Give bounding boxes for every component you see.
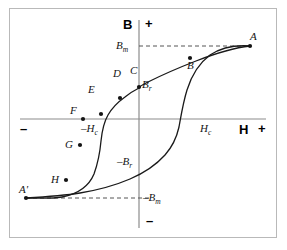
point-label-C: C (130, 65, 137, 76)
positive-h-sign: + (258, 122, 266, 135)
point-label-E: E (88, 84, 95, 95)
hc-tick-label: Hc (200, 123, 211, 137)
point-label-F: F (70, 105, 77, 116)
br-tick-label: Br (142, 79, 152, 93)
point-marker-H (64, 178, 68, 182)
point-marker-D (118, 96, 122, 100)
point-marker-A-prime (24, 196, 28, 200)
h-axis-label: H (239, 123, 248, 136)
point-marker-A (248, 44, 252, 48)
b-axis-label: B (123, 18, 132, 31)
positive-b-sign: + (145, 17, 153, 30)
point-label-A: A (250, 31, 257, 42)
point-label-B: B (187, 60, 194, 71)
point-label-G: G (65, 139, 73, 150)
negative-bm-tick-label: –Bm (143, 192, 161, 206)
point-marker-G (78, 143, 82, 147)
point-marker-E (99, 112, 103, 116)
negative-hc-tick-label: –Hc (81, 123, 98, 137)
point-label-A-prime: A' (19, 184, 28, 195)
hysteresis-loop-figure: B + – H + – Bm Br –Br –Bm –Hc Hc A B C D… (0, 0, 287, 250)
point-label-D: D (113, 68, 121, 79)
ascending-branch-curve (26, 46, 250, 198)
point-marker-C (137, 85, 141, 89)
negative-br-tick-label: –Br (117, 156, 132, 170)
bm-tick-label: Bm (116, 40, 128, 54)
point-label-H: H (51, 174, 59, 185)
negative-h-sign: – (20, 122, 27, 135)
negative-b-sign: – (146, 214, 153, 227)
point-marker-F (81, 117, 85, 121)
